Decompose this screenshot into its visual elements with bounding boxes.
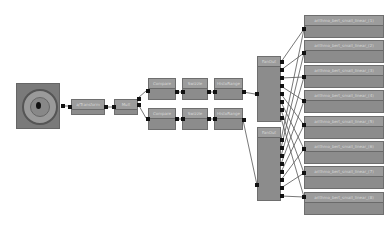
node-title: Swizzle [183,79,207,89]
node-title: arithmo_bert_small_linear_(1) [305,16,383,26]
port[interactable] [242,118,246,122]
port[interactable] [280,186,284,190]
output-input-port[interactable] [302,99,306,103]
node-title: Compare [149,79,175,89]
node-title: arithmo_bert_small_linear_(3) [305,66,383,76]
output-node-4[interactable]: arithmo_bert_small_linear_(4) [304,90,384,113]
output-node-5[interactable]: arithmo_bert_small_linear_(5) [304,116,384,139]
node-title: FanOut [258,128,280,138]
port[interactable] [146,89,150,93]
histo-top-node[interactable]: HistoRange [214,78,243,100]
port[interactable] [280,162,284,166]
port[interactable] [213,117,217,121]
node-title: arithmo_bert_small_linear_(7) [305,167,383,177]
port[interactable] [175,117,179,121]
mult-node[interactable]: Mult [114,99,138,115]
swizzle-bottom-node[interactable]: Swizzle [182,108,208,130]
node-title: arithmo_bert_small_linear_(5) [305,117,383,127]
fanout-top-node[interactable]: FanOut [257,56,281,122]
port[interactable] [280,146,284,150]
output-input-port[interactable] [302,147,306,151]
source-output-port[interactable] [61,104,65,108]
histo-bottom-node[interactable]: HistoRange [214,108,243,130]
mult-output-port-1[interactable] [137,97,141,101]
disc-center [36,102,41,109]
port[interactable] [280,84,284,88]
port[interactable] [175,90,179,94]
port[interactable] [181,117,185,121]
node-graph-canvas[interactable]: a/Transform Mult Compare Swizzle HistoRa… [0,0,389,229]
port[interactable] [280,154,284,158]
port[interactable] [213,90,217,94]
port[interactable] [280,178,284,182]
node-title: arithmo_bert_small_linear_(6) [305,142,383,152]
port[interactable] [146,117,150,121]
transform-node[interactable]: a/Transform [71,99,105,115]
node-title: Mult [115,100,137,110]
transform-output-port[interactable] [104,105,108,109]
node-title: HistoRange [215,109,242,119]
node-title: FanOut [258,57,280,67]
output-input-port[interactable] [302,123,306,127]
mult-input-port[interactable] [112,105,116,109]
output-node-1[interactable]: arithmo_bert_small_linear_(1) [304,15,384,38]
port[interactable] [207,90,211,94]
fanout-bottom-node[interactable]: FanOut [257,127,281,201]
mult-output-port-2[interactable] [137,103,141,107]
output-node-3[interactable]: arithmo_bert_small_linear_(3) [304,65,384,88]
node-title: HistoRange [215,79,242,89]
node-title: Swizzle [183,109,207,119]
node-title: a/Transform [72,100,104,110]
port[interactable] [280,60,284,64]
compare-top-node[interactable]: Compare [148,78,176,100]
output-input-port[interactable] [302,75,306,79]
port[interactable] [280,92,284,96]
source-thumbnail[interactable] [16,83,60,129]
port[interactable] [280,100,284,104]
port[interactable] [280,170,284,174]
port[interactable] [280,194,284,198]
node-title: arithmo_bert_small_linear_(4) [305,91,383,101]
output-input-port[interactable] [302,27,306,31]
node-title: arithmo_bert_small_linear_(8) [305,193,383,203]
port[interactable] [242,90,246,94]
output-node-2[interactable]: arithmo_bert_small_linear_(2) [304,40,384,63]
port[interactable] [280,138,284,142]
transform-input-port[interactable] [68,105,72,109]
port[interactable] [181,90,185,94]
port[interactable] [207,117,211,121]
port[interactable] [280,108,284,112]
port[interactable] [280,116,284,120]
output-node-8[interactable]: arithmo_bert_small_linear_(8) [304,192,384,215]
fanout-top-input-port[interactable] [255,92,259,96]
swizzle-top-node[interactable]: Swizzle [182,78,208,100]
compare-bottom-node[interactable]: Compare [148,108,176,130]
node-title: Compare [149,109,175,119]
output-node-7[interactable]: arithmo_bert_small_linear_(7) [304,166,384,189]
output-input-port[interactable] [302,51,306,55]
fanout-bottom-input-port[interactable] [255,183,259,187]
output-node-6[interactable]: arithmo_bert_small_linear_(6) [304,141,384,164]
port[interactable] [280,76,284,80]
port[interactable] [280,68,284,72]
output-input-port[interactable] [302,195,306,199]
node-title: arithmo_bert_small_linear_(2) [305,41,383,51]
output-input-port[interactable] [302,171,306,175]
